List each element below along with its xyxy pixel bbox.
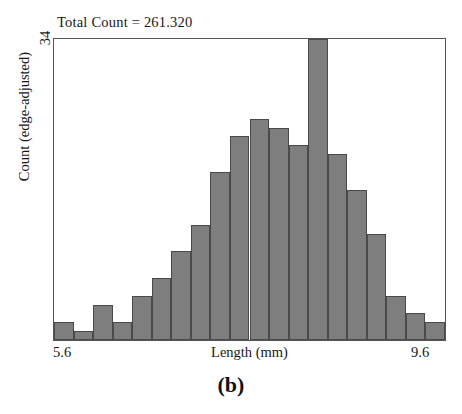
histogram-bar bbox=[152, 278, 172, 340]
histogram-bar bbox=[328, 154, 348, 340]
x-axis-tick-max: 9.6 bbox=[411, 344, 429, 361]
histogram-bar bbox=[54, 322, 74, 340]
histogram-bar bbox=[250, 119, 270, 340]
histogram-bar bbox=[347, 190, 367, 341]
histogram-bar bbox=[367, 234, 387, 340]
histogram-bars bbox=[54, 39, 445, 340]
panel-caption: (b) bbox=[0, 372, 462, 398]
histogram-bar bbox=[113, 322, 133, 340]
plot-area bbox=[53, 38, 446, 341]
histogram-bar bbox=[210, 172, 230, 340]
histogram-bar bbox=[406, 313, 426, 340]
histogram-bar bbox=[425, 322, 445, 340]
histogram-bar bbox=[308, 39, 328, 340]
histogram-bar bbox=[269, 128, 289, 340]
chart-title: Total Count = 261.320 bbox=[57, 14, 192, 31]
histogram-bar bbox=[191, 225, 211, 340]
histogram-bar bbox=[289, 145, 309, 340]
histogram-bar bbox=[93, 305, 113, 340]
y-axis-label: Count (edge-adjusted) bbox=[16, 17, 33, 217]
x-axis-label: Length (mm) bbox=[53, 344, 446, 361]
y-axis-tick-max: 34 bbox=[37, 27, 54, 49]
histogram-bar bbox=[171, 251, 191, 340]
histogram-bar bbox=[74, 331, 94, 340]
histogram-bar bbox=[132, 296, 152, 340]
histogram-bar bbox=[386, 296, 406, 340]
histogram-bar bbox=[230, 136, 250, 340]
histogram-figure: Total Count = 261.320 34 Count (edge-adj… bbox=[0, 0, 462, 414]
